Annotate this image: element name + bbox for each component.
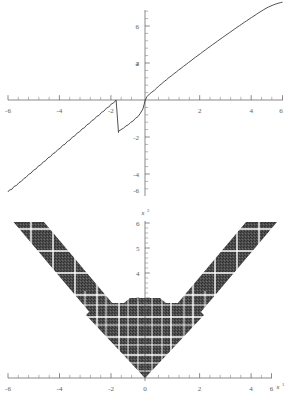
top-y-tick-label-2: 2 xyxy=(136,60,140,68)
bottom-y-tick-label-6: 6 xyxy=(136,220,140,228)
bottom-x-tick-label-neg2: -2 xyxy=(108,385,114,393)
bottom-y-axis-label: x 2 xyxy=(141,208,150,216)
top-x-tick-label-neg6: -6 xyxy=(5,107,11,115)
top-x-tick-label-6: 6 xyxy=(279,107,283,115)
top-x-tick-label-2: 2 xyxy=(198,107,202,115)
bottom-x-axis-label-subscript: 1 xyxy=(282,382,284,387)
bottom-x-tick-label-neg6: -6 xyxy=(5,385,11,393)
top-x-tick-label-neg4: -4 xyxy=(56,107,62,115)
bottom-x-tick-label-4: 4 xyxy=(249,385,253,393)
top-chart-axes xyxy=(8,10,283,196)
bottom-x-tick-label-0: 0 xyxy=(143,385,147,393)
bottom-y-tick-label-4: 4 xyxy=(136,270,140,278)
top-y-tick-label-6: 6 xyxy=(136,23,140,31)
top-y-tick-label-neg4: -4 xyxy=(133,171,139,179)
below-axis-mask xyxy=(0,379,291,410)
top-y-tick-label-neg6: -6 xyxy=(133,187,139,195)
bottom-x-tick-label-neg4: -4 xyxy=(57,385,63,393)
bottom-y-axis-label-subscript: 2 xyxy=(147,208,149,213)
bottom-x-axis-label-base: x xyxy=(276,383,280,390)
bottom-region-chart: -6 -4 -2 0 2 4 6 6 5 4 3 x 1 x 2 xyxy=(0,205,291,410)
bottom-x-ticks xyxy=(8,373,272,378)
bottom-y-tick-label-5: 5 xyxy=(136,245,140,253)
top-x-tick-label-neg2: -2 xyxy=(108,107,114,115)
top-x-tick-label-4: 4 xyxy=(249,107,253,115)
top-line-chart: -6 -4 -2 2 4 6 6 4 2 -2 -4 -6 xyxy=(0,0,291,205)
bottom-x-tick-label-6: 6 xyxy=(270,385,274,393)
bottom-x-tick-label-2: 2 xyxy=(198,385,202,393)
plot-page: -6 -4 -2 2 4 6 6 4 2 -2 -4 -6 xyxy=(0,0,291,410)
top-y-tick-label-neg2: -2 xyxy=(133,134,139,142)
bottom-y-axis-label-base: x xyxy=(141,209,145,216)
bottom-y-tick-label-3: 3 xyxy=(136,295,140,303)
